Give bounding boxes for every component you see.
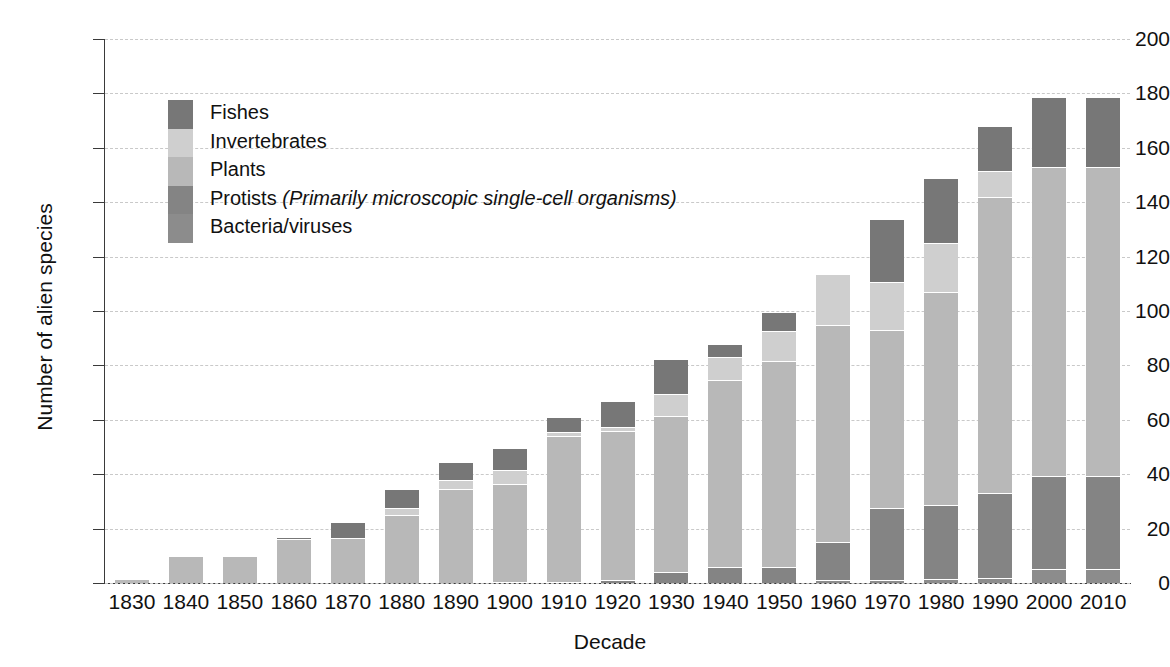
bar-segment (277, 537, 311, 540)
bar (1032, 97, 1066, 583)
bar-segment (816, 325, 850, 543)
legend-swatch (168, 214, 193, 243)
bar-segment (385, 508, 419, 515)
bar-segment (385, 515, 419, 583)
bar-segment (762, 567, 796, 583)
bar-segment (439, 489, 473, 583)
gridline (105, 39, 1130, 40)
legend-item: Invertebrates (168, 129, 728, 158)
bar (816, 273, 850, 583)
legend-item: Fishes (168, 100, 728, 129)
bar-segment (547, 417, 581, 432)
bar-segment (654, 359, 688, 394)
bar (439, 462, 473, 583)
bar-segment (870, 580, 904, 583)
bar (169, 556, 203, 583)
bar-segment (493, 448, 527, 470)
legend-item: Bacteria/viruses (168, 214, 728, 243)
bar-segment (493, 582, 527, 583)
bar-segment (816, 274, 850, 324)
bar-segment (924, 243, 958, 292)
bar-segment (331, 522, 365, 538)
bar-segment (708, 380, 742, 566)
bar-segment (115, 579, 149, 583)
x-tick-label: 2010 (1063, 590, 1143, 614)
bar-segment (708, 567, 742, 583)
legend-swatch (168, 100, 193, 129)
bar-segment (870, 330, 904, 508)
bar-segment (654, 572, 688, 583)
bar-segment (385, 489, 419, 508)
bar-segment (493, 470, 527, 484)
bar-segment (331, 538, 365, 583)
bar-segment (439, 462, 473, 480)
bar-segment (708, 357, 742, 380)
bar-segment (816, 542, 850, 580)
bar-segment (762, 361, 796, 566)
bar-segment (601, 427, 635, 431)
legend-label: Invertebrates (210, 130, 327, 153)
bar (115, 579, 149, 583)
legend-item: Plants (168, 157, 728, 186)
bar-segment (1086, 97, 1120, 166)
bar (385, 489, 419, 583)
legend-label: Bacteria/viruses (210, 215, 352, 238)
bar-segment (762, 331, 796, 361)
bar (331, 522, 365, 583)
bar (223, 556, 257, 583)
bar-segment (1032, 476, 1066, 570)
gridline (105, 311, 1130, 312)
gridline (105, 365, 1130, 366)
bar-segment (169, 556, 203, 583)
bar-segment (654, 394, 688, 416)
bar-segment (223, 556, 257, 583)
bar (924, 178, 958, 583)
gridline (105, 93, 1130, 94)
bar-segment (1032, 167, 1066, 476)
bar-segment (978, 171, 1012, 197)
bar-segment (816, 273, 850, 274)
bar-segment (978, 578, 1012, 583)
legend-swatch (168, 129, 193, 158)
bar-segment (654, 416, 688, 572)
legend: FishesInvertebratesPlantsProtists (Prima… (168, 100, 728, 243)
bar-segment (924, 292, 958, 506)
bar (870, 219, 904, 583)
alien-species-stacked-bar-chart: Number of alien species 0204060801001201… (0, 0, 1170, 667)
bar-segment (1032, 569, 1066, 583)
bar-segment (547, 582, 581, 583)
bar-segment (547, 436, 581, 582)
legend-swatch (168, 157, 193, 186)
bar-segment (1086, 167, 1120, 476)
bar-segment (547, 432, 581, 436)
bar (493, 448, 527, 583)
bar (547, 417, 581, 583)
bar-segment (924, 178, 958, 243)
bar-segment (924, 505, 958, 578)
bar-segment (493, 484, 527, 582)
bar-segment (601, 401, 635, 427)
bar-segment (924, 579, 958, 583)
bar (277, 537, 311, 583)
bar-segment (870, 508, 904, 580)
legend-label: Protists (Primarily microscopic single-c… (210, 187, 677, 210)
bar-segment (762, 312, 796, 331)
bar-segment (439, 480, 473, 490)
bar (762, 312, 796, 583)
bar (1086, 97, 1120, 583)
bar-segment (1086, 569, 1120, 583)
bar-segment (978, 197, 1012, 493)
bar-segment (1086, 476, 1120, 570)
bar-segment (708, 344, 742, 358)
bar (978, 126, 1012, 583)
y-axis-title: Number of alien species (33, 37, 57, 597)
legend-item: Protists (Primarily microscopic single-c… (168, 186, 728, 215)
bar-segment (601, 580, 635, 583)
bar-segment (1032, 97, 1066, 166)
legend-swatch (168, 186, 193, 215)
bar (654, 359, 688, 583)
bar-segment (601, 431, 635, 581)
bar-segment (978, 493, 1012, 577)
bar-segment (277, 539, 311, 583)
bar (601, 401, 635, 583)
